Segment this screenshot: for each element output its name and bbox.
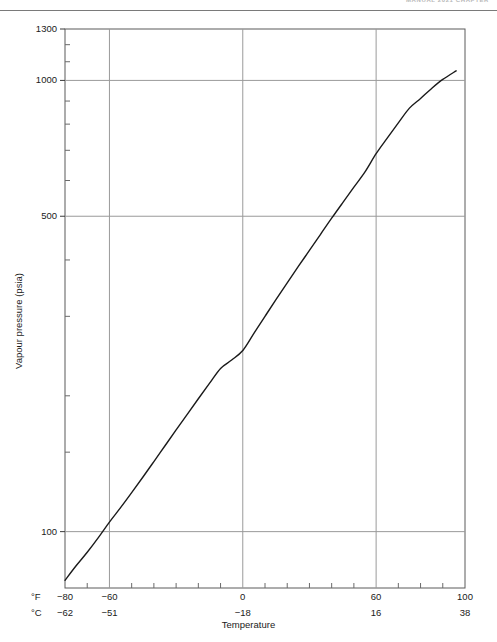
y-tick-label: 1000 <box>17 75 57 85</box>
unit-label-fahrenheit: °F <box>31 592 55 602</box>
x-gridlines <box>109 29 376 588</box>
x-tick-label-fahrenheit: 0 <box>213 592 273 602</box>
y-axis-title: Vapour pressure (psia) <box>13 231 24 411</box>
vapour-pressure-chart: Vapour pressure (psia) 10050010001300 −8… <box>0 0 497 642</box>
x-tick-label-fahrenheit: −60 <box>79 592 139 602</box>
y-tick-label: 1300 <box>17 24 57 34</box>
x-minor-ticks <box>87 583 443 588</box>
y-tick-label: 100 <box>17 527 57 537</box>
x-tick-label-celsius: 38 <box>435 608 495 618</box>
y-major-ticks <box>60 29 65 532</box>
chart-canvas <box>0 0 497 642</box>
x-tick-label-fahrenheit: 60 <box>346 592 406 602</box>
x-tick-label-celsius: −18 <box>213 608 273 618</box>
x-tick-label-fahrenheit: 100 <box>435 592 495 602</box>
x-axis-title: Temperature <box>0 620 497 630</box>
vapour-pressure-curve <box>65 71 456 580</box>
x-tick-label-celsius: 16 <box>346 608 406 618</box>
y-gridlines <box>65 80 465 531</box>
y-minor-ticks <box>65 45 70 452</box>
y-tick-label: 500 <box>17 211 57 221</box>
unit-label-celsius: °C <box>31 608 55 618</box>
x-tick-label-celsius: −51 <box>79 608 139 618</box>
